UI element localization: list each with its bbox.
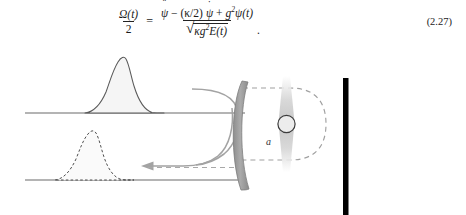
energy-of-t-term: E(t) <box>209 25 227 37</box>
equation-rhs-denominator: √ κg2E(t) <box>183 20 231 37</box>
incoming-pulse-solid <box>85 57 164 113</box>
cavity-qed-diagram: a <box>0 48 466 215</box>
atom-mode-label: a <box>266 136 271 147</box>
psi-of-t-term: ψ(t) <box>235 7 253 19</box>
equation-equals-sign: = <box>146 14 153 29</box>
psi-dot-term: ψ <box>206 7 213 19</box>
curved-mirror <box>233 81 249 190</box>
equation-number: (2.27) <box>427 16 452 27</box>
equation-rhs-numerator: ψ− (κ/2)ψ+g2ψ(t) <box>158 6 256 20</box>
equation-lhs-numerator: Ω(t) <box>116 8 141 21</box>
equation-block: Ω(t) 2 = ψ− (κ/2)ψ+g2ψ(t) √ κg2E(t) <box>0 6 466 48</box>
equation-lhs-fraction: Ω(t) 2 <box>116 8 141 35</box>
psi-double-dot-term: ψ <box>161 7 168 19</box>
figure-page: Ω(t) 2 = ψ− (κ/2)ψ+g2ψ(t) √ κg2E(t) <box>0 0 466 215</box>
minus-kappa-over-two-term: − (κ/2) <box>171 7 203 19</box>
end-mirror-bar <box>343 78 349 215</box>
radicand: κg2E(t) <box>193 23 228 37</box>
equation-expression: Ω(t) 2 = ψ− (κ/2)ψ+g2ψ(t) √ κg2E(t) <box>116 6 260 37</box>
return-arrow <box>141 108 232 171</box>
equation-rhs-fraction: ψ− (κ/2)ψ+g2ψ(t) √ κg2E(t) <box>158 6 256 37</box>
radical-sign: √ <box>186 21 194 36</box>
outgoing-pulse-dashed <box>55 131 134 180</box>
diagram-svg <box>0 48 466 215</box>
equation-lhs-denominator: 2 <box>123 21 135 35</box>
plus-sign: + <box>216 7 223 19</box>
sqrt-group: √ κg2E(t) <box>186 22 228 37</box>
equation-period: . <box>257 24 260 37</box>
atom-circle <box>278 115 295 132</box>
